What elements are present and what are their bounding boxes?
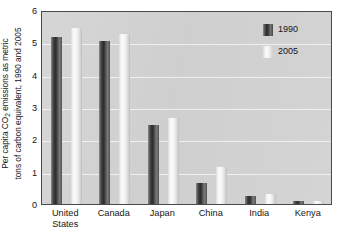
x-tick-label-line2: States <box>41 219 90 230</box>
x-tick-label-line1: Kenya <box>295 208 321 218</box>
bar-2005-kenya <box>313 201 324 204</box>
y-axis-title-line1-b: emissions as metric <box>0 38 10 113</box>
y-axis-title-line1-a: Per capita CO <box>0 117 10 169</box>
y-tick-label: 1 <box>23 168 37 178</box>
bar-1990-canada <box>99 41 110 204</box>
x-tick-label-line1: United <box>52 208 79 218</box>
bar-2005-canada <box>119 34 130 204</box>
bar-group <box>51 12 82 204</box>
bar-2005-japan <box>168 118 179 204</box>
x-tick-label: Kenya <box>284 208 333 219</box>
legend-item-1990: 1990 <box>263 22 321 37</box>
x-tick-label: UnitedStates <box>41 208 90 231</box>
x-tick-label-line1: Japan <box>150 208 175 218</box>
bar-1990-india <box>245 196 256 204</box>
x-tick-label: India <box>235 208 284 219</box>
legend: 1990 2005 <box>263 22 321 66</box>
bar-1990-united-states <box>51 37 62 204</box>
y-tick-label: 6 <box>23 6 37 16</box>
y-tick-label: 2 <box>23 135 37 145</box>
bar-group <box>99 12 130 204</box>
bar-1990-japan <box>148 125 159 204</box>
x-tick-label: China <box>187 208 236 219</box>
legend-swatch-1990-icon <box>263 24 273 36</box>
legend-label-2005: 2005 <box>278 47 298 56</box>
legend-item-2005: 2005 <box>263 44 321 59</box>
bar-2005-china <box>216 167 227 204</box>
bar-chart-figure: Per capita CO2 emissions as metric tons … <box>0 0 337 246</box>
bar-group <box>196 12 227 204</box>
y-axis-tick-labels: 6543210 <box>22 0 37 246</box>
x-tick-label: Japan <box>138 208 187 219</box>
y-axis-title-subscript: 2 <box>4 113 11 117</box>
bar-group <box>148 12 179 204</box>
bar-2005-united-states <box>71 28 82 204</box>
bar-1990-kenya <box>293 201 304 204</box>
x-tick-label-line1: Canada <box>98 208 130 218</box>
x-tick-label-line1: China <box>199 208 223 218</box>
x-tick-label: Canada <box>90 208 139 219</box>
bar-1990-china <box>196 183 207 204</box>
bar-2005-india <box>265 194 276 204</box>
x-tick-label-line1: India <box>249 208 269 218</box>
y-tick-label: 5 <box>23 38 37 48</box>
y-tick-label: 3 <box>23 103 37 113</box>
legend-swatch-2005-icon <box>263 46 273 58</box>
plot-area: 1990 2005 <box>41 11 332 205</box>
x-axis-tick-labels: UnitedStatesCanadaJapanChinaIndiaKenya <box>41 208 332 246</box>
y-tick-label: 4 <box>23 71 37 81</box>
legend-label-1990: 1990 <box>278 25 298 34</box>
y-tick-label: 0 <box>23 200 37 210</box>
